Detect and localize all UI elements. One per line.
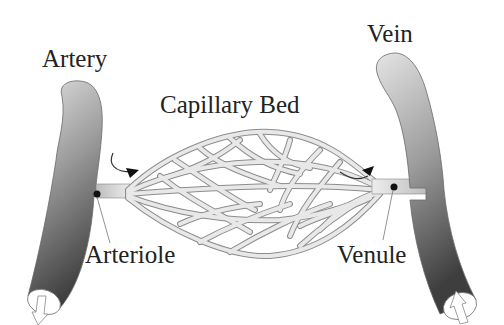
arrowhead-icon — [126, 168, 139, 178]
artery — [24, 81, 122, 325]
venule-marker-dot — [391, 184, 398, 191]
arteriole-label: Arteriole — [85, 242, 175, 267]
vein-label: Vein — [367, 21, 413, 46]
capillary-bed — [128, 132, 380, 256]
artery-label: Artery — [42, 46, 107, 71]
capillary-bed-label: Capillary Bed — [160, 92, 300, 117]
venule-leader-line — [383, 190, 393, 240]
arteriole-marker-dot — [94, 191, 101, 198]
arteriole-leader-line — [97, 197, 110, 243]
circulation-diagram: Artery Vein Capillary Bed Arteriole Venu… — [0, 0, 504, 325]
venule-label: Venule — [337, 242, 406, 267]
